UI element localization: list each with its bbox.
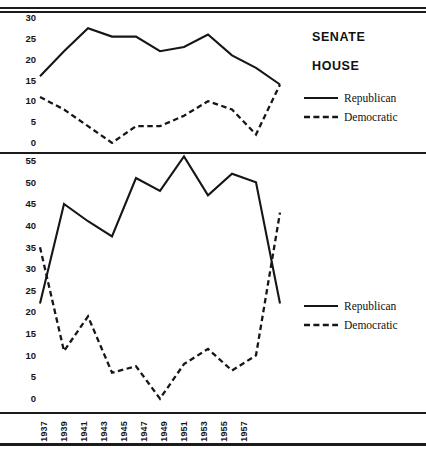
dashed-line-swatch-icon — [303, 320, 339, 330]
house-y-tick: 15 — [2, 329, 36, 339]
x-axis-tick-label: 1953 — [200, 421, 209, 442]
house-title: HOUSE — [312, 59, 359, 73]
x-axis-tick-label: 1957 — [240, 421, 249, 442]
solid-line-swatch-icon — [303, 301, 339, 311]
x-axis-tick-label: 1947 — [140, 421, 149, 442]
senate-legend: RepublicanDemocratic — [303, 88, 423, 126]
senate-democratic-line — [40, 85, 280, 143]
house-y-tick: 25 — [2, 286, 36, 296]
senate-title: SENATE — [312, 30, 365, 44]
senate-legend-label: Democratic — [344, 111, 398, 123]
senate-legend-item: Republican — [303, 88, 423, 107]
senate-y-tick: 10 — [2, 96, 36, 106]
house-y-tick: 50 — [2, 178, 36, 188]
house-line-chart — [38, 158, 286, 404]
house-y-tick: 40 — [2, 221, 36, 231]
house-y-tick: 10 — [2, 351, 36, 361]
senate-y-tick: 25 — [2, 34, 36, 44]
house-y-tick: 35 — [2, 243, 36, 253]
house-legend-label: Democratic — [344, 319, 398, 331]
x-axis-tick-label: 1943 — [100, 421, 109, 442]
house-y-tick: 55 — [2, 156, 36, 166]
x-axis-tick-label: 1955 — [220, 421, 229, 442]
house-democratic-line — [40, 213, 280, 399]
x-axis-bottom-rule — [0, 443, 426, 446]
senate-y-tick: 15 — [2, 76, 36, 86]
x-axis-tick-label: 1945 — [120, 421, 129, 442]
senate-y-tick: 5 — [2, 117, 36, 127]
house-y-tick: 20 — [2, 307, 36, 317]
senate-republican-line — [40, 28, 280, 84]
x-axis-tick-label: 1937 — [40, 421, 49, 442]
top-rule-upper — [0, 7, 426, 9]
senate-line-chart — [38, 16, 286, 147]
house-plot-area — [38, 158, 286, 404]
house-y-tick: 30 — [2, 264, 36, 274]
x-axis-tick-label: 1951 — [180, 421, 189, 442]
x-axis-tick-label: 1949 — [160, 421, 169, 442]
senate-plot-area — [38, 16, 286, 147]
house-legend-item: Democratic — [303, 315, 423, 334]
house-legend: RepublicanDemocratic — [303, 296, 423, 334]
house-legend-item: Republican — [303, 296, 423, 315]
chart-page: 302520151050 SENATE RepublicanDemocratic… — [0, 0, 426, 449]
house-chart-panel: 5550454035302520151050 — [0, 154, 426, 412]
senate-legend-label: Republican — [344, 92, 396, 104]
senate-y-tick: 30 — [2, 13, 36, 23]
x-axis-tick-label: 1939 — [60, 421, 69, 442]
x-axis-year-labels: 1937193919411943194519471949195119531955… — [0, 414, 426, 443]
senate-y-tick: 20 — [2, 55, 36, 65]
house-y-tick: 5 — [2, 372, 36, 382]
house-legend-label: Republican — [344, 300, 396, 312]
dashed-line-swatch-icon — [303, 112, 339, 122]
house-y-tick: 45 — [2, 199, 36, 209]
senate-legend-item: Democratic — [303, 107, 423, 126]
house-y-tick: 0 — [2, 394, 36, 404]
x-axis-tick-label: 1941 — [80, 421, 89, 442]
solid-line-swatch-icon — [303, 93, 339, 103]
senate-y-tick: 0 — [2, 138, 36, 148]
house-republican-line — [40, 156, 280, 303]
